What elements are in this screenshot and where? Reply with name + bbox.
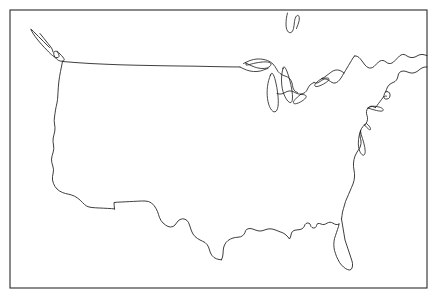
canada-border-east-path (322, 70, 344, 79)
puget-sound-path (32, 30, 50, 48)
lake-michigan-path (267, 73, 278, 112)
west-coast-path (52, 62, 115, 210)
lake-erie-path (293, 94, 306, 103)
atlantic-coast-path (342, 107, 376, 220)
delaware-bay-path (365, 124, 371, 130)
canada-group (314, 55, 427, 84)
lake-of-the-woods-path (286, 13, 299, 33)
canada-maritime-coast-path (355, 55, 428, 69)
upper-peninsula-path (240, 67, 268, 72)
great-lakes-group (240, 59, 329, 112)
map-container (0, 0, 438, 302)
florida-peninsula-path (334, 219, 353, 270)
bays-and-islands-group (286, 13, 383, 155)
lake-superior-path (246, 62, 271, 69)
map-border-frame (10, 10, 427, 288)
coastlines-group (31, 29, 427, 270)
chesapeake-bay-path (358, 131, 365, 155)
lake-huron-path (282, 67, 293, 103)
maine-coast-path (386, 67, 428, 92)
st-lawrence-river-path (314, 56, 355, 83)
northern-border-49th-parallel-path (63, 62, 241, 68)
mexico-border-path (114, 201, 222, 260)
gulf-coast-path (222, 222, 340, 260)
new-england-coast-path (376, 92, 391, 108)
us-outline-map-svg (0, 0, 438, 302)
